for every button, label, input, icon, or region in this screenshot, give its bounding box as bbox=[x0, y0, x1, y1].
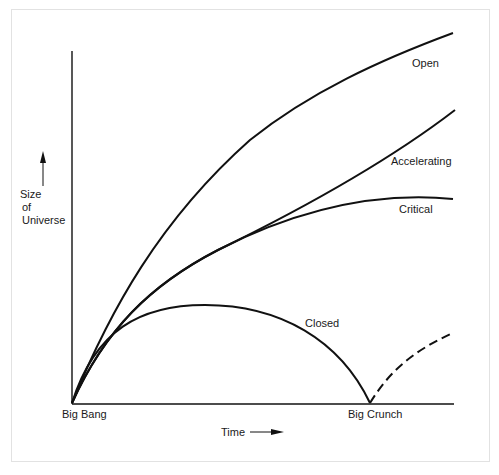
x-arrow-head-icon bbox=[271, 429, 284, 435]
label-accelerating: Accelerating bbox=[391, 155, 452, 168]
universe-expansion-diagram bbox=[0, 0, 499, 475]
y-arrow-head-icon bbox=[40, 151, 46, 163]
big-bang-label: Big Bang bbox=[62, 408, 107, 421]
big-crunch-label: Big Crunch bbox=[348, 408, 402, 421]
x-axis-label: Time bbox=[221, 426, 245, 439]
label-critical: Critical bbox=[399, 203, 433, 216]
y-axis-label-line1: Size bbox=[20, 188, 41, 201]
curve-accelerating bbox=[72, 110, 455, 403]
curve-closed-rebound bbox=[370, 333, 453, 403]
curve-open bbox=[72, 33, 453, 403]
label-open: Open bbox=[412, 57, 439, 70]
y-axis-label-line2: of bbox=[22, 201, 31, 214]
label-closed: Closed bbox=[305, 317, 339, 330]
y-axis-label-line3: Universe bbox=[22, 214, 65, 227]
